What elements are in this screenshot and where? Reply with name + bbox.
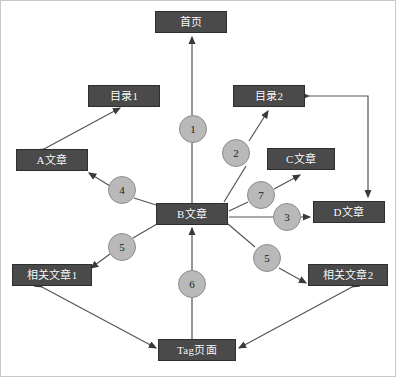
edge-b-to-related2-lower	[279, 268, 306, 283]
edge-badge-1-label: 1	[190, 124, 196, 135]
edge-badge-4-label: 4	[119, 185, 125, 196]
node-article-b[interactable]: B文章	[156, 203, 228, 225]
node-article-d[interactable]: D文章	[313, 201, 385, 223]
edge-b-to-articlea-lower	[134, 198, 156, 205]
node-catalog1[interactable]: 目录1	[88, 85, 160, 107]
edge-related1-to-tag	[42, 287, 156, 348]
edge-layer	[0, 0, 397, 378]
diagram-canvas: 首页 目录1 目录2 A文章 C文章 B文章 D文章 相关文章1 相关文章2 T…	[0, 0, 397, 378]
edge-b-to-catalog2-lower	[224, 166, 246, 202]
node-article-a[interactable]: A文章	[16, 149, 88, 171]
edge-articlea-to-catalog1	[44, 108, 120, 149]
node-catalog1-label: 目录1	[110, 91, 138, 102]
node-article-c[interactable]: C文章	[267, 148, 335, 170]
edge-related2-to-tag	[239, 287, 352, 348]
edge-badge-7-label: 7	[258, 190, 264, 201]
edge-b-to-articlea-upper	[89, 173, 110, 186]
node-tag-page[interactable]: Tag页面	[158, 339, 236, 361]
edge-badge-6-label: 6	[189, 279, 195, 290]
node-home-label: 首页	[180, 17, 203, 28]
node-home[interactable]: 首页	[155, 11, 227, 33]
node-catalog2[interactable]: 目录2	[233, 85, 305, 107]
node-related1-label: 相关文章1	[27, 270, 78, 281]
edge-b-to-articlec-upper	[274, 175, 300, 189]
node-tag-page-label: Tag页面	[177, 345, 217, 356]
edge-badge-3-label: 3	[284, 212, 290, 223]
node-related2[interactable]: 相关文章2	[308, 264, 388, 286]
node-catalog2-label: 目录2	[255, 91, 283, 102]
edge-badge-5-right-label: 5	[264, 253, 270, 264]
edge-badge-5-left[interactable]: 5	[108, 233, 136, 261]
edge-badge-6[interactable]: 6	[178, 270, 206, 298]
node-article-a-label: A文章	[37, 155, 68, 166]
edge-badge-2-label: 2	[233, 148, 239, 159]
edge-b-to-related2-upper	[228, 224, 255, 247]
node-article-d-label: D文章	[334, 207, 365, 218]
edge-badge-2[interactable]: 2	[222, 139, 250, 167]
edge-badge-3[interactable]: 3	[273, 203, 301, 231]
edge-b-to-related1-lower	[91, 254, 110, 268]
edge-b-to-catalog2-upper	[249, 111, 268, 141]
edge-badge-1[interactable]: 1	[179, 115, 207, 143]
edge-articled-to-catalog2	[309, 96, 368, 197]
edge-b-to-related1-upper	[133, 224, 157, 238]
node-related2-label: 相关文章2	[323, 270, 374, 281]
edge-badge-5-left-label: 5	[119, 242, 125, 253]
node-article-c-label: C文章	[286, 154, 316, 165]
edge-badge-4[interactable]: 4	[108, 176, 136, 204]
edge-badge-7[interactable]: 7	[247, 181, 275, 209]
node-article-b-label: B文章	[177, 209, 207, 220]
edge-b-to-articlec-lower	[229, 202, 248, 211]
node-related1[interactable]: 相关文章1	[12, 264, 92, 286]
edge-badge-5-right[interactable]: 5	[253, 244, 281, 272]
